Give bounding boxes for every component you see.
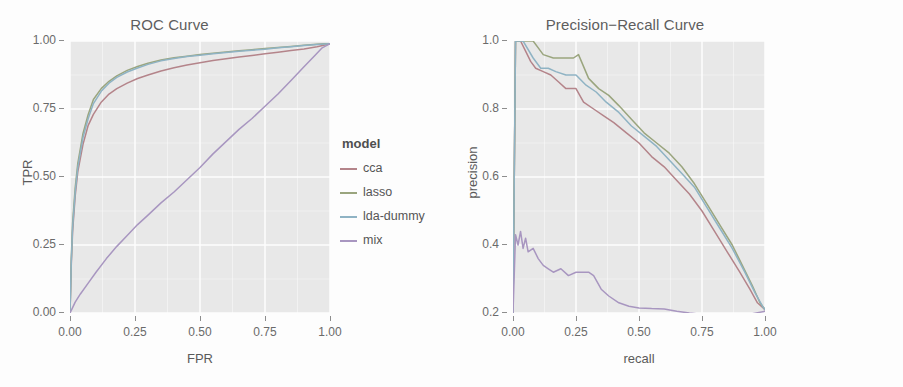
roc-y-tick: 0.75 — [18, 101, 64, 115]
x-tick-mark — [513, 316, 514, 321]
legend-label: mix — [363, 233, 382, 247]
x-tick-mark — [135, 316, 136, 321]
y-tick-mark — [59, 176, 64, 177]
roc-x-tick: 0.00 — [45, 325, 95, 339]
legend-label: cca — [363, 161, 382, 175]
roc-legend-title: model — [342, 136, 425, 151]
roc-title: ROC Curve — [0, 16, 397, 33]
legend-item-lasso[interactable]: lasso — [340, 182, 425, 202]
y-tick-mark — [59, 244, 64, 245]
x-tick-mark — [576, 316, 577, 321]
pr-y-tick: 0.2 — [461, 305, 507, 319]
legend-key-line-icon — [340, 163, 357, 174]
y-tick-mark — [502, 40, 507, 41]
x-tick-mark — [765, 316, 766, 321]
figure-canvas: ROC Curve TPR FPR 0.000.250.500.751.00 0… — [0, 0, 903, 387]
y-tick-mark — [502, 108, 507, 109]
y-tick-mark — [59, 108, 64, 109]
pr-plot-svg — [513, 41, 765, 313]
legend-key-line-icon — [340, 235, 357, 246]
pr-y-tick: 0.8 — [461, 101, 507, 115]
roc-legend-items: ccalassolda-dummymix — [340, 158, 425, 250]
pr-x-tick: 0.00 — [488, 325, 538, 339]
legend-key-line-icon — [340, 187, 357, 198]
pr-x-axis-label: recall — [513, 351, 765, 366]
roc-y-tick: 0.25 — [18, 237, 64, 251]
pr-y-tick: 1.0 — [461, 33, 507, 47]
roc-chart-panel: ROC Curve TPR FPR 0.000.250.500.751.00 0… — [0, 0, 455, 387]
pr-title: Precision−Recall Curve — [401, 16, 849, 33]
y-tick-mark — [502, 176, 507, 177]
roc-plot-area — [70, 41, 330, 313]
roc-x-tick: 0.75 — [240, 325, 290, 339]
y-tick-mark — [59, 40, 64, 41]
x-tick-mark — [200, 316, 201, 321]
roc-x-tick: 0.50 — [175, 325, 225, 339]
roc-legend: model ccalassolda-dummymix — [340, 136, 425, 254]
y-tick-mark — [502, 244, 507, 245]
legend-item-lda-dummy[interactable]: lda-dummy — [340, 206, 425, 226]
pr-y-tick: 0.6 — [461, 169, 507, 183]
legend-label: lda-dummy — [363, 209, 425, 223]
roc-y-tick: 0.50 — [18, 169, 64, 183]
x-tick-mark — [639, 316, 640, 321]
roc-y-tick: 1.00 — [18, 33, 64, 47]
pr-x-tick: 0.75 — [677, 325, 727, 339]
legend-item-mix[interactable]: mix — [340, 230, 425, 250]
roc-x-axis-label: FPR — [70, 351, 330, 366]
roc-plot-svg — [70, 41, 330, 313]
x-tick-mark — [265, 316, 266, 321]
roc-x-tick: 0.25 — [110, 325, 160, 339]
pr-x-tick: 1.00 — [740, 325, 790, 339]
roc-x-tick: 1.00 — [305, 325, 355, 339]
pr-x-tick: 0.25 — [551, 325, 601, 339]
pr-y-tick: 0.4 — [461, 237, 507, 251]
pr-plot-area — [513, 41, 765, 313]
legend-key-line-icon — [340, 211, 357, 222]
x-tick-mark — [330, 316, 331, 321]
roc-y-tick: 0.00 — [18, 305, 64, 319]
legend-item-cca[interactable]: cca — [340, 158, 425, 178]
x-tick-mark — [702, 316, 703, 321]
y-tick-mark — [502, 312, 507, 313]
pr-chart-panel: Precision−Recall Curve precision recall … — [455, 0, 903, 387]
x-tick-mark — [70, 316, 71, 321]
legend-label: lasso — [363, 185, 392, 199]
y-tick-mark — [59, 312, 64, 313]
pr-x-tick: 0.50 — [614, 325, 664, 339]
